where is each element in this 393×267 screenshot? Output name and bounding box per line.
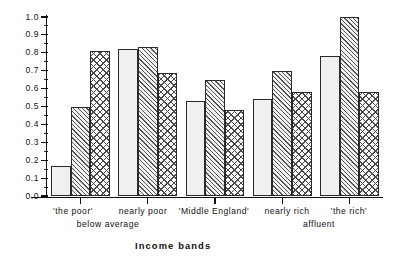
bar-5 bbox=[138, 47, 158, 196]
bar-3 bbox=[90, 51, 110, 196]
x-axis-line bbox=[31, 197, 383, 198]
y-axis-tick-label: 0.9 bbox=[9, 30, 39, 38]
y-axis-tick-label: 0.3 bbox=[9, 138, 39, 146]
x-sublabel-affluent: affluent bbox=[303, 219, 335, 229]
bar-chart: 0.00.10.20.30.40.50.60.70.80.91.0 'the p… bbox=[0, 0, 393, 267]
x-label-4: nearly rich bbox=[264, 206, 309, 216]
bar-1 bbox=[51, 166, 71, 196]
bar-13 bbox=[320, 56, 340, 196]
y-axis-tick-label: 0.0 bbox=[9, 192, 39, 200]
plot-area bbox=[47, 17, 383, 196]
x-sublabel-below-average: below average bbox=[77, 219, 139, 229]
y-axis-tick-label: 0.1 bbox=[9, 174, 39, 182]
bar-11 bbox=[272, 71, 292, 196]
y-axis-tick-label: 0.4 bbox=[9, 120, 39, 128]
y-axis-tick-label: 0.5 bbox=[9, 102, 39, 110]
bar-14 bbox=[340, 17, 360, 196]
bar-9 bbox=[225, 110, 245, 196]
bar-2 bbox=[71, 107, 91, 197]
bar-6 bbox=[158, 73, 178, 197]
bar-7 bbox=[186, 101, 206, 196]
bar-15 bbox=[359, 92, 379, 196]
y-axis-tick-label: 0.7 bbox=[9, 66, 39, 74]
x-axis-tick bbox=[349, 197, 350, 204]
x-axis-tick bbox=[147, 197, 148, 204]
bar-4 bbox=[118, 49, 138, 196]
y-axis-tick-label: 0.2 bbox=[9, 156, 39, 164]
x-label-5: 'the rich' bbox=[331, 206, 367, 216]
x-axis-title: Income bands bbox=[135, 240, 211, 251]
y-axis-tick-label: 0.6 bbox=[9, 84, 39, 92]
x-axis-tick bbox=[282, 197, 283, 204]
y-axis-tick-label: 1.0 bbox=[9, 13, 39, 21]
bar-12 bbox=[292, 92, 312, 196]
x-axis-tick bbox=[214, 197, 215, 204]
bar-8 bbox=[205, 80, 225, 196]
y-axis-tick-label: 0.8 bbox=[9, 48, 39, 56]
bar-10 bbox=[253, 99, 273, 196]
x-label-1: 'the poor' bbox=[53, 206, 93, 216]
x-axis-tick bbox=[80, 197, 81, 204]
x-label-2: nearly poor bbox=[119, 206, 168, 216]
x-label-3: 'Middle England' bbox=[179, 206, 250, 216]
